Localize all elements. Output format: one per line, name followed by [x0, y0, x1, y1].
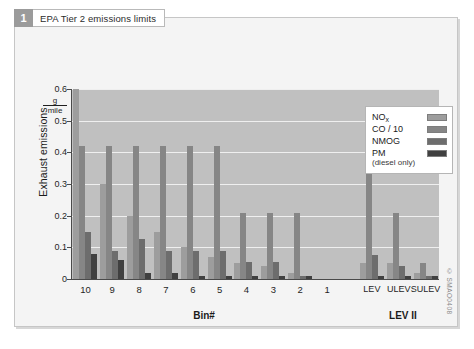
watermark: © SMAO0408	[446, 268, 453, 314]
legend-item-label: NOx	[372, 112, 389, 122]
y-tick-mark	[67, 216, 71, 217]
legend-swatch	[427, 114, 447, 121]
x-tick-label: 10	[80, 284, 91, 295]
x-tick-label: 3	[271, 284, 276, 295]
x-tick-label: 5	[217, 284, 222, 295]
x-tick-label: 7	[163, 284, 168, 295]
legend-item-label: PM	[372, 148, 386, 158]
x-tick-label: 1	[324, 284, 329, 295]
legend: NOxCO / 10NMOGPM(diesel only)	[365, 106, 453, 174]
bar-group[interactable]	[385, 213, 412, 280]
x-axis-title-bins: Bin#	[63, 310, 345, 321]
bar-group[interactable]	[179, 146, 206, 279]
x-tick-label: 4	[244, 284, 249, 295]
bar-group[interactable]	[206, 146, 233, 279]
y-tick-label: 0.6	[41, 84, 67, 94]
legend-item-label: NMOG	[372, 136, 400, 146]
y-tick-mark	[67, 121, 71, 122]
figure-caption: EPA Tier 2 emissions limits	[33, 9, 165, 27]
y-tick-mark	[67, 152, 71, 153]
x-axis-line	[72, 279, 439, 280]
x-tick-label: 6	[190, 284, 195, 295]
chart-panel: Exhaust emissions g mile 00.10.20.30.40.…	[14, 17, 458, 327]
x-tick-label: 2	[298, 284, 303, 295]
x-tick-label: 8	[136, 284, 141, 295]
legend-item[interactable]: CO / 10	[372, 123, 447, 135]
y-tick-label: 0.4	[41, 147, 67, 157]
legend-swatch	[427, 126, 447, 133]
bar-group[interactable]	[153, 146, 180, 279]
legend-item[interactable]: NMOG	[372, 135, 447, 147]
y-tick-mark	[67, 279, 71, 280]
bar-nmog[interactable]	[220, 251, 226, 280]
y-tick-mark	[67, 247, 71, 248]
legend-note: (diesel only)	[372, 159, 447, 168]
gridline	[72, 89, 439, 90]
y-tick-label: 0	[41, 274, 67, 284]
y-axis-ticks: 00.10.20.30.40.50.6	[37, 18, 67, 328]
x-tick-label: 9	[110, 284, 115, 295]
y-tick-mark	[67, 184, 71, 185]
legend-item-label: CO / 10	[372, 124, 403, 134]
x-axis-title-levii: LEV II	[363, 310, 443, 321]
figure-header: 1 EPA Tier 2 emissions limits	[14, 9, 165, 27]
y-axis-line	[71, 89, 72, 280]
x-tick-label: ULEV	[387, 284, 411, 294]
x-tick-label: LEV	[363, 284, 380, 294]
bar-co10[interactable]	[294, 213, 300, 280]
legend-swatch	[427, 150, 447, 157]
figure-number: 1	[14, 9, 33, 27]
x-tick-label: SULEV	[411, 284, 441, 294]
y-tick-label: 0.2	[41, 211, 67, 221]
bar-group[interactable]	[412, 263, 439, 279]
y-tick-label: 0.3	[41, 179, 67, 189]
bar-group[interactable]	[126, 146, 153, 279]
y-tick-label: 0.5	[41, 116, 67, 126]
bar-pm[interactable]	[118, 260, 124, 279]
legend-item[interactable]: NOx	[372, 111, 447, 123]
bar-nmog[interactable]	[193, 251, 199, 280]
legend-swatch	[427, 138, 447, 145]
y-tick-label: 0.1	[41, 242, 67, 252]
bar-group[interactable]	[72, 89, 99, 279]
bar-group[interactable]	[287, 213, 314, 280]
bar-group[interactable]	[99, 146, 126, 279]
figure-page: Exhaust emissions g mile 00.10.20.30.40.…	[0, 0, 474, 349]
y-tick-mark	[67, 89, 71, 90]
bar-pm[interactable]	[91, 254, 97, 279]
bar-group[interactable]	[260, 213, 287, 280]
bar-group[interactable]	[233, 213, 260, 280]
